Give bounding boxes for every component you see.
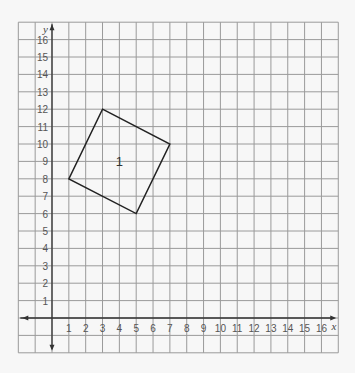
x-tick-label: 1 bbox=[66, 323, 72, 334]
x-axis-label: x bbox=[331, 320, 337, 332]
x-tick-label: 5 bbox=[133, 323, 139, 334]
x-tick-label: 9 bbox=[201, 323, 207, 334]
x-tick-label: 7 bbox=[167, 323, 173, 334]
x-tick-label: 3 bbox=[100, 323, 106, 334]
x-tick-label: 12 bbox=[249, 323, 261, 334]
x-tick-label: 16 bbox=[316, 323, 328, 334]
y-tick-label: 15 bbox=[37, 52, 49, 63]
y-axis-arrow-down-icon bbox=[50, 345, 55, 351]
x-tick-label: 8 bbox=[184, 323, 190, 334]
x-tick-label: 15 bbox=[299, 323, 311, 334]
coordinate-grid: 1234567891011121314151612345678910111213… bbox=[0, 0, 355, 373]
y-axis-arrow-up-icon bbox=[50, 24, 55, 30]
x-tick-label: 4 bbox=[117, 323, 123, 334]
x-tick-label: 14 bbox=[282, 323, 294, 334]
y-tick-label: 4 bbox=[42, 243, 48, 254]
x-tick-label: 2 bbox=[83, 323, 89, 334]
y-tick-label: 16 bbox=[37, 35, 49, 46]
x-axis-arrow-left-icon bbox=[22, 316, 28, 321]
y-tick-label: 3 bbox=[42, 261, 48, 272]
y-tick-label: 6 bbox=[42, 209, 48, 220]
y-tick-label: 7 bbox=[42, 191, 48, 202]
shape-label: 1 bbox=[116, 154, 123, 169]
y-tick-label: 5 bbox=[42, 226, 48, 237]
x-tick-label: 13 bbox=[265, 323, 277, 334]
y-axis-label: y bbox=[42, 23, 48, 35]
y-tick-label: 1 bbox=[42, 296, 48, 307]
x-tick-label: 11 bbox=[232, 323, 243, 334]
y-tick-label: 2 bbox=[42, 278, 48, 289]
grid-lines bbox=[18, 22, 338, 353]
y-tick-label: 11 bbox=[38, 122, 49, 133]
y-tick-label: 9 bbox=[42, 156, 48, 167]
y-tick-label: 12 bbox=[37, 104, 49, 115]
x-tick-label: 10 bbox=[215, 323, 227, 334]
y-tick-label: 10 bbox=[37, 139, 49, 150]
y-tick-label: 13 bbox=[37, 87, 49, 98]
x-tick-label: 6 bbox=[150, 323, 156, 334]
y-tick-label: 8 bbox=[42, 174, 48, 185]
axes bbox=[20, 24, 336, 351]
y-tick-label: 14 bbox=[37, 69, 49, 80]
